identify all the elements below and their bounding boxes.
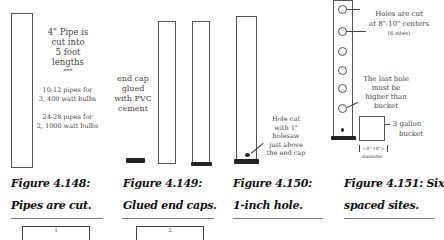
caption-divider [344,218,434,219]
hole-site-4 [338,66,347,75]
figure-caption-title: Figure 4.151: Six [344,177,444,190]
loose-end-cap [126,158,145,163]
end-cap [234,159,259,164]
figure-caption-title: Figure 4.148: [11,177,90,190]
hole-cut-note: Hole cut with 1" holesaw just above the … [263,115,309,158]
hole-site-6 [338,104,347,113]
holes-spacing-note: Holes are cut at 8"-10" centers (6 sites… [360,10,438,37]
hole-site-3 [338,47,347,56]
end-cap-note: end cap glued with PVC cement [108,74,158,114]
figure-caption-title: Figure 4.150: [233,177,312,190]
pipe-with-cap [192,21,210,164]
caption-divider [233,218,323,219]
step-box: 2 [136,226,204,240]
pipes-1000w-note: 24-28 pipes for 2, 1000 watt bulbs [30,113,105,131]
pipe-illustration [158,21,176,164]
diameter-label: diameter [354,153,390,160]
glued-end-cap [191,162,212,166]
pipes-400w-note: 10-12 pipes for 3, 400 watt bulbs [30,86,105,104]
hole-site-5 [338,84,347,93]
figure-caption-text: Pipes are cut. [11,199,91,212]
figure-caption-title: Figure 4.149: [123,177,202,190]
step-box: 1 [22,226,90,240]
caption-divider [11,218,103,219]
bucket-illustration [359,116,385,141]
bottom-hole-marker [341,128,344,132]
figure-caption-text: spaced sites. [344,199,419,212]
figure-caption-text: 1-inch hole. [233,199,303,212]
pipe-cut-note: 4" Pipe is cut into 5 foot lengths *** [36,27,100,75]
caption-divider [122,218,214,219]
bucket-note: 3 gallon bucket [384,119,430,139]
pointer-line-top [346,9,360,10]
figure-caption-text: Glued end caps. [123,199,217,212]
last-hole-note: The last hole must be higher than bucket [360,75,412,111]
hole-marker [245,153,250,157]
end-cap [331,136,356,140]
pipe-illustration [236,16,257,161]
diameter-value: <8"-10"> [359,145,388,152]
